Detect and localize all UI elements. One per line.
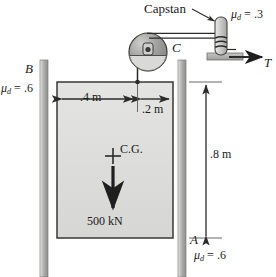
figure-canvas: Capstan μd = .3 C T B μd = .6 .4 m .2 m … [0,0,276,277]
mu-capstan-label: μd = .3 [231,8,263,22]
dimension-left-width-label: .4 m [80,91,101,103]
dimension-right-width-label: .2 m [142,103,163,115]
right-guide-rail [178,60,186,277]
dimension-travel-height-label: .8 m [210,148,231,160]
point-c-label: C [172,41,181,54]
capstan-leader-line [192,9,215,21]
weight-label: 500 kN [87,215,123,227]
mu-rail-a-label: μd = .6 [194,249,226,263]
capstan-label: Capstan [144,2,186,15]
diagram-svg [0,0,276,277]
point-b-label: B [25,62,33,75]
mu-rail-b-label: μd = .6 [1,82,33,96]
cg-label: C.G. [120,143,143,155]
tension-label: T [264,56,271,69]
point-a-label: A [190,233,198,246]
left-guide-rail [40,60,48,277]
